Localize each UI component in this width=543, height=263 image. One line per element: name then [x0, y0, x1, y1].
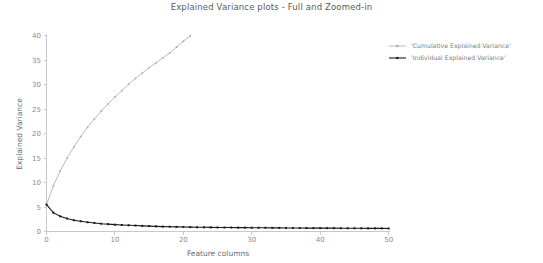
y-axis-label: Explained Variance: [15, 98, 24, 170]
data-point-marker: [80, 220, 82, 222]
data-point-marker: [292, 227, 294, 229]
data-point-marker: [73, 219, 75, 221]
data-point-marker: [367, 227, 369, 229]
data-point-marker: [52, 212, 54, 214]
data-point-marker: [189, 226, 191, 228]
data-point-marker: [100, 223, 102, 225]
data-point-marker: [128, 224, 130, 226]
data-point-marker: [388, 227, 390, 229]
data-point-marker: [162, 57, 164, 59]
data-point-marker: [306, 227, 308, 229]
data-point-marker: [360, 227, 362, 229]
x-tick-label: 40: [316, 236, 325, 244]
data-point-marker: [66, 218, 68, 220]
data-point-marker: [169, 226, 171, 228]
data-series-layer: [46, 35, 390, 229]
data-point-marker: [135, 78, 137, 80]
data-point-marker: [189, 35, 191, 37]
data-point-marker: [169, 52, 171, 54]
data-point-marker: [176, 226, 178, 228]
legend-entry[interactable]: 'Cumulative Explained Variance': [389, 42, 511, 50]
data-point-marker: [80, 136, 82, 138]
series-line: [47, 205, 389, 229]
data-point-marker: [340, 227, 342, 229]
data-point-marker: [258, 227, 260, 229]
data-point-marker: [176, 46, 178, 48]
figure-canvas: Explained Variance plots - Full and Zoom…: [0, 0, 543, 263]
x-tick-label: 50: [384, 236, 393, 244]
data-point-marker: [353, 227, 355, 229]
x-tick-label: 20: [179, 236, 188, 244]
data-point-marker: [107, 223, 109, 225]
data-point-marker: [326, 227, 328, 229]
legend-entry[interactable]: 'Individual Explained Variance': [389, 54, 506, 62]
data-point-marker: [182, 226, 184, 228]
data-point-marker: [347, 227, 349, 229]
data-point-marker: [107, 103, 109, 105]
data-point-marker: [223, 226, 225, 228]
data-point-marker: [374, 227, 376, 229]
data-point-marker: [128, 84, 130, 86]
data-point-marker: [148, 67, 150, 69]
x-tick-label: 30: [247, 236, 256, 244]
y-tick-label: 25: [32, 106, 41, 114]
data-point-marker: [210, 226, 212, 228]
x-tick-label: 0: [44, 236, 48, 244]
data-point-marker: [217, 226, 219, 228]
data-point-marker: [93, 222, 95, 224]
data-point-marker: [141, 225, 143, 227]
legend-marker: [396, 57, 398, 59]
y-tick-label: 40: [32, 32, 41, 40]
data-point-marker: [183, 40, 185, 42]
legend: 'Cumulative Explained Variance''Individu…: [389, 42, 511, 62]
data-point-marker: [59, 170, 61, 172]
data-point-marker: [299, 227, 301, 229]
data-point-marker: [114, 96, 116, 98]
data-point-marker: [196, 226, 198, 228]
data-point-marker: [73, 146, 75, 148]
data-point-marker: [53, 185, 55, 187]
data-point-marker: [155, 62, 157, 64]
data-point-marker: [264, 227, 266, 229]
x-tick-label: 10: [110, 236, 119, 244]
data-point-marker: [142, 72, 144, 74]
data-point-marker: [312, 227, 314, 229]
x-axis-ticks: 01020304050: [44, 232, 393, 245]
explained-variance-chart: 0510152025303540 01020304050 Feature col…: [0, 0, 543, 263]
data-point-marker: [285, 227, 287, 229]
data-point-marker: [381, 227, 383, 229]
data-point-marker: [203, 226, 205, 228]
y-tick-label: 5: [37, 204, 41, 212]
data-point-marker: [94, 118, 96, 120]
data-point-marker: [271, 227, 273, 229]
data-point-marker: [155, 225, 157, 227]
y-tick-label: 10: [32, 179, 41, 187]
series-individual: [46, 204, 390, 230]
x-axis-label: Feature columns: [187, 249, 249, 258]
data-point-marker: [100, 110, 102, 112]
data-point-marker: [87, 221, 89, 223]
series-line: [47, 36, 191, 205]
data-point-marker: [251, 227, 253, 229]
data-point-marker: [244, 227, 246, 229]
data-point-marker: [162, 226, 164, 228]
y-tick-label: 35: [32, 57, 41, 65]
y-axis-ticks: 0510152025303540: [32, 32, 46, 236]
data-point-marker: [59, 215, 61, 217]
data-point-marker: [121, 224, 123, 226]
data-point-marker: [121, 90, 123, 92]
legend-label: 'Individual Explained Variance': [411, 54, 506, 62]
data-point-marker: [134, 225, 136, 227]
data-point-marker: [148, 225, 150, 227]
series-cumulative: [46, 35, 191, 205]
data-point-marker: [230, 227, 232, 229]
y-tick-label: 20: [32, 130, 41, 138]
y-tick-label: 30: [32, 81, 41, 89]
y-tick-label: 15: [32, 155, 41, 163]
legend-label: 'Cumulative Explained Variance': [411, 42, 511, 50]
data-point-marker: [278, 227, 280, 229]
data-point-marker: [66, 157, 68, 159]
data-point-marker: [237, 227, 239, 229]
data-point-marker: [333, 227, 335, 229]
data-point-marker: [87, 127, 89, 129]
